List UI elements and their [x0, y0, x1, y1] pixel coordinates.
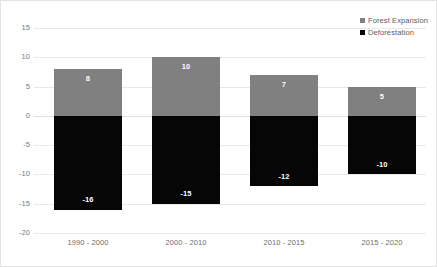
legend-item-label: Forest Expansion: [368, 17, 428, 25]
bar-group: 8 -16: [54, 28, 122, 233]
bar-chart: 15 10 5 0 -5 -10 -15 -20 8 -16 10: [0, 0, 437, 267]
y-axis-tick-label: -10: [4, 171, 30, 179]
bar-forest-expansion[interactable]: 5: [348, 87, 416, 116]
legend-item-label: Deforestation: [368, 29, 414, 37]
square-marker-gray-icon: [360, 18, 365, 23]
bar-deforestation[interactable]: -12: [250, 116, 318, 186]
bar-deforestation[interactable]: -15: [152, 116, 220, 204]
bar-group: 5 -10: [348, 28, 416, 233]
y-axis-tick-label: 5: [4, 83, 30, 91]
bar-value-label: 8: [54, 75, 122, 83]
bar-value-label: 7: [250, 81, 318, 89]
x-axis-tick-label: 1990 - 2000: [54, 239, 122, 247]
y-axis-tick-label: 0: [4, 112, 30, 120]
gridline: [34, 233, 426, 234]
bar-forest-expansion[interactable]: 7: [250, 75, 318, 116]
bar-deforestation[interactable]: -10: [348, 116, 416, 175]
x-axis: 1990 - 2000 2000 - 2010 2010 - 2015 2015…: [34, 239, 426, 259]
bar-value-label: -12: [250, 173, 318, 181]
bar-value-label: 5: [348, 93, 416, 101]
plot-area: 8 -16 10 -15 7 -12 5: [34, 28, 426, 233]
y-axis-tick-label: -15: [4, 200, 30, 208]
y-axis: 15 10 5 0 -5 -10 -15 -20: [1, 28, 30, 233]
bar-value-label: -16: [54, 196, 122, 204]
x-axis-tick-label: 2015 - 2020: [348, 239, 416, 247]
bar-forest-expansion[interactable]: 10: [152, 57, 220, 116]
y-axis-tick-label: -20: [4, 229, 30, 237]
y-axis-tick-label: 10: [4, 54, 30, 62]
bar-value-label: -10: [348, 161, 416, 169]
bar-group: 10 -15: [152, 28, 220, 233]
bar-value-label: 10: [152, 63, 220, 71]
legend: Forest Expansion Deforestation: [360, 17, 428, 36]
bar-forest-expansion[interactable]: 8: [54, 69, 122, 116]
x-axis-tick-label: 2010 - 2015: [250, 239, 318, 247]
y-axis-tick-label: -5: [4, 141, 30, 149]
bar-value-label: -15: [152, 190, 220, 198]
y-axis-tick-label: 15: [4, 24, 30, 32]
legend-item-deforestation[interactable]: Deforestation: [360, 29, 428, 37]
bar-group: 7 -12: [250, 28, 318, 233]
x-axis-tick-label: 2000 - 2010: [152, 239, 220, 247]
square-marker-black-icon: [360, 30, 365, 35]
bar-deforestation[interactable]: -16: [54, 116, 122, 210]
legend-item-forest-expansion[interactable]: Forest Expansion: [360, 17, 428, 25]
